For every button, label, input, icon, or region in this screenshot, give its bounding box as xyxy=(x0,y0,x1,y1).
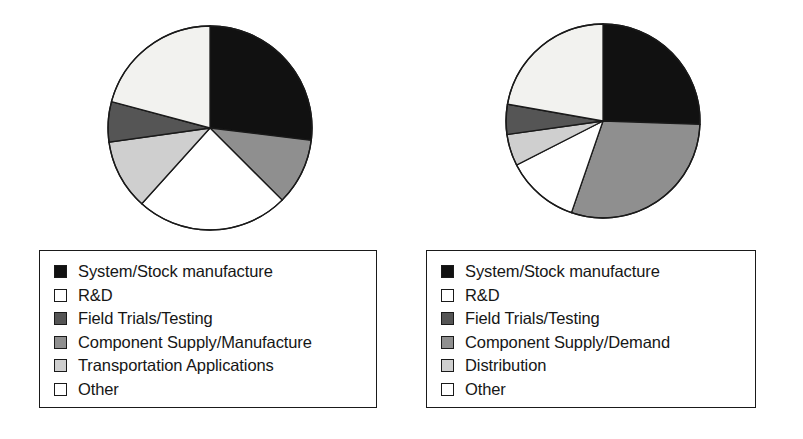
legend-left-list: System/Stock manufacture R&D Field Trial… xyxy=(40,251,376,401)
legend-swatch-field-trials-testing xyxy=(441,312,454,325)
legend-item-label: System/Stock manufacture xyxy=(465,260,660,284)
legend-left: System/Stock manufacture R&D Field Trial… xyxy=(39,250,377,408)
legend-item-label: Field Trials/Testing xyxy=(78,307,213,331)
legend-item[interactable]: Distribution xyxy=(441,354,755,378)
legend-item[interactable]: System/Stock manufacture xyxy=(441,260,755,284)
legend-swatch-field-trials-testing xyxy=(54,312,67,325)
legend-swatch-component-supply-manufacture xyxy=(54,336,67,349)
legend-item-label: Transportation Applications xyxy=(78,354,274,378)
pie-chart-left xyxy=(100,18,320,238)
panel-left: System/Stock manufacture R&D Field Trial… xyxy=(0,0,400,439)
legend-item[interactable]: Transportation Applications xyxy=(54,354,376,378)
legend-right: System/Stock manufacture R&D Field Trial… xyxy=(426,250,756,408)
legend-item-label: Component Supply/Demand xyxy=(465,331,670,355)
pie-slice[interactable] xyxy=(210,26,312,140)
legend-item-label: Other xyxy=(78,378,119,402)
legend-item[interactable]: Component Supply/Manufacture xyxy=(54,331,376,355)
legend-item-label: Other xyxy=(465,378,506,402)
legend-item-label: R&D xyxy=(78,284,113,308)
legend-item[interactable]: Component Supply/Demand xyxy=(441,331,755,355)
legend-swatch-distribution xyxy=(441,359,454,372)
pie-chart-figure: System/Stock manufacture R&D Field Trial… xyxy=(0,0,803,439)
pie-slice[interactable] xyxy=(507,24,603,121)
legend-item[interactable]: System/Stock manufacture xyxy=(54,260,376,284)
legend-item-label: R&D xyxy=(465,284,500,308)
legend-item[interactable]: Field Trials/Testing xyxy=(441,307,755,331)
legend-swatch-rd xyxy=(441,289,454,302)
pie-right-svg xyxy=(500,18,710,228)
legend-swatch-component-supply-demand xyxy=(441,336,454,349)
legend-swatch-system-stock-manufacture xyxy=(441,265,454,278)
pie-chart-right xyxy=(500,18,710,228)
legend-swatch-transportation-applications xyxy=(54,359,67,372)
panel-right: System/Stock manufacture R&D Field Trial… xyxy=(395,0,795,439)
legend-item-label: Distribution xyxy=(465,354,546,378)
legend-item-label: Component Supply/Manufacture xyxy=(78,331,312,355)
legend-item[interactable]: Other xyxy=(441,378,755,402)
legend-swatch-rd xyxy=(54,289,67,302)
legend-item-label: System/Stock manufacture xyxy=(78,260,273,284)
legend-swatch-system-stock-manufacture xyxy=(54,265,67,278)
legend-item[interactable]: R&D xyxy=(441,284,755,308)
legend-item[interactable]: R&D xyxy=(54,284,376,308)
pie-left-svg xyxy=(100,18,320,238)
legend-item[interactable]: Other xyxy=(54,378,376,402)
legend-swatch-other xyxy=(441,383,454,396)
pie-slice[interactable] xyxy=(603,24,700,124)
legend-swatch-other xyxy=(54,383,67,396)
legend-item[interactable]: Field Trials/Testing xyxy=(54,307,376,331)
legend-item-label: Field Trials/Testing xyxy=(465,307,600,331)
legend-right-list: System/Stock manufacture R&D Field Trial… xyxy=(427,251,755,401)
